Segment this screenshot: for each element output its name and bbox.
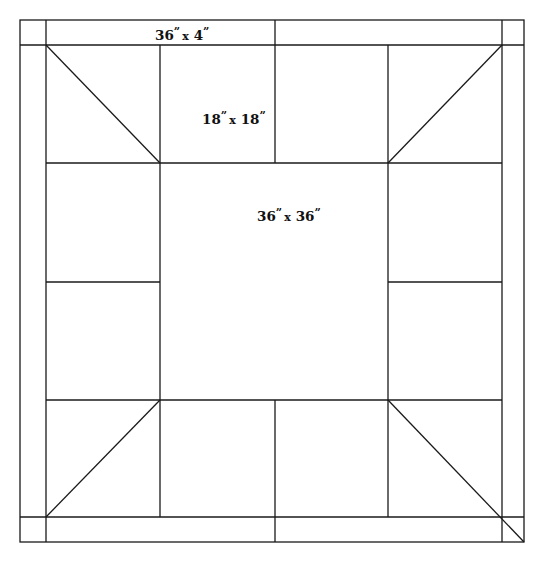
- corner-diagonal-top-left: [46, 45, 160, 163]
- corner-diagonal-bottom-right: [388, 400, 524, 542]
- corner-diagonal-bottom-left: [46, 400, 160, 517]
- center-label: 36”x36”: [257, 206, 321, 224]
- quilt-diagram: 36”x4” 18”x18” 36”x36”: [0, 0, 549, 562]
- border-strip-label: 36”x4”: [155, 25, 209, 43]
- corner-diagonal-top-right: [388, 45, 502, 163]
- block-label: 18”x18”: [202, 109, 266, 127]
